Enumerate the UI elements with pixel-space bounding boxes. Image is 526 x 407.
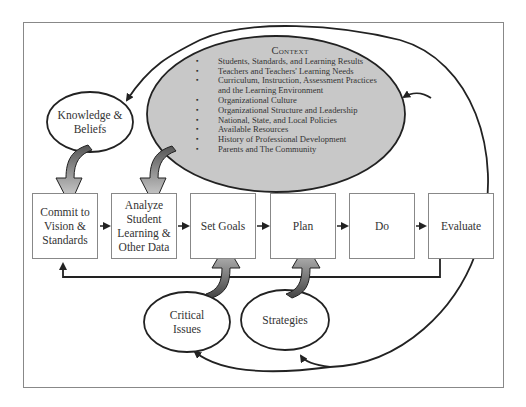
context-item: Parents and The Community bbox=[190, 145, 390, 155]
knowledge-beliefs-label: Knowledge & Beliefs bbox=[56, 104, 124, 140]
context-list: Students, Standards, and Learning Result… bbox=[190, 57, 390, 155]
step-set-goals: Set Goals bbox=[190, 193, 256, 259]
feedback-arrow bbox=[63, 259, 440, 277]
step-commit-vision: Commit to Vision & Standards bbox=[32, 193, 98, 259]
step-analyze-data: Analyze Student Learning & Other Data bbox=[111, 193, 177, 259]
context-arrow bbox=[404, 93, 431, 98]
context-item: Curriculum, Instruction, Assessment Prac… bbox=[190, 76, 390, 96]
strategies-label: Strategies bbox=[248, 310, 322, 330]
step-do: Do bbox=[349, 193, 415, 259]
strategies-arrow bbox=[301, 356, 330, 367]
critical-issues-label: Critical Issues bbox=[160, 304, 214, 340]
step-plan: Plan bbox=[270, 193, 336, 259]
context-panel: Context Students, Standards, and Learnin… bbox=[190, 46, 390, 155]
step-evaluate: Evaluate bbox=[428, 193, 494, 259]
context-title: Context bbox=[190, 46, 390, 56]
